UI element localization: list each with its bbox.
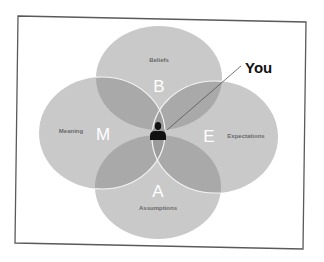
diagram-canvas: B M E A Beliefs Meaning Expectations Ass… <box>0 0 324 262</box>
label-expectations: Expectations <box>227 133 265 139</box>
label-meaning: Meaning <box>59 128 84 134</box>
label-beliefs: Beliefs <box>149 57 169 63</box>
you-label: You <box>245 59 272 76</box>
letter-m: M <box>96 125 110 144</box>
letter-a: A <box>152 182 164 201</box>
label-assumptions: Assumptions <box>139 205 178 211</box>
letter-b: B <box>153 77 164 96</box>
letter-e: E <box>203 127 214 146</box>
